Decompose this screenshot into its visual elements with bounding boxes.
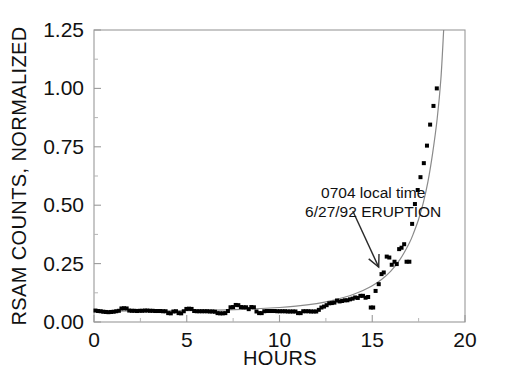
y-tick-label: 0.00	[43, 310, 84, 333]
data-point	[377, 282, 381, 286]
annotation-line-1: 0704 local time	[321, 184, 425, 201]
x-tick-label: 0	[88, 328, 100, 351]
data-point	[226, 309, 230, 313]
data-point	[395, 262, 399, 266]
data-point	[431, 104, 435, 108]
data-point	[387, 256, 391, 260]
x-tick-label: 15	[361, 328, 384, 351]
y-tick-label: 1.25	[43, 18, 84, 41]
data-point	[402, 242, 406, 246]
data-point	[371, 306, 375, 310]
y-tick-label: 0.50	[43, 193, 84, 216]
data-point	[400, 246, 404, 250]
data-point	[407, 260, 411, 264]
annotation-line-2: 6/27/92 ERUPTION	[305, 203, 441, 220]
y-axis-title: RSAM COUNTS, NORMALIZED	[8, 26, 30, 325]
y-tick-label: 1.00	[43, 76, 84, 99]
y-axis-tick-labels: 0.000.250.500.751.001.25	[43, 18, 84, 333]
data-point	[374, 289, 378, 293]
data-point	[425, 144, 429, 148]
data-point	[435, 86, 439, 90]
data-point	[382, 270, 386, 274]
x-tick-label: 5	[181, 328, 193, 351]
data-point	[418, 175, 422, 179]
y-tick-label: 0.25	[43, 252, 84, 275]
x-tick-label: 20	[453, 328, 476, 351]
chart-figure: 0.000.250.500.751.001.25 05101520 0704 l…	[0, 0, 506, 380]
data-point	[252, 305, 256, 309]
data-point	[428, 123, 432, 127]
x-axis-title: HOURS	[243, 347, 317, 369]
data-point	[410, 222, 414, 226]
y-tick-label: 0.75	[43, 135, 84, 158]
data-point	[366, 295, 370, 299]
data-point	[422, 161, 426, 165]
rsam-counts-chart: 0.000.250.500.751.001.25 05101520 0704 l…	[0, 0, 506, 380]
plot-background	[94, 30, 465, 322]
